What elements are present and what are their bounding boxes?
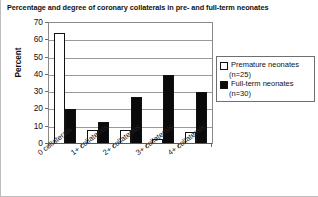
- legend-sublabel-premature: (n=25): [229, 70, 312, 79]
- legend-label-fullterm: Full-term neonates: [231, 79, 294, 88]
- legend-item-fullterm: Full-term neonates: [220, 79, 312, 89]
- legend-label-premature: Premature neonates: [231, 60, 299, 69]
- legend-swatch-fullterm-icon: [220, 81, 228, 89]
- y-tick-label: 10: [19, 121, 43, 131]
- y-tick-label: 20: [19, 103, 43, 113]
- gridline: [49, 92, 212, 93]
- y-tick-label: 50: [19, 52, 43, 62]
- y-tick-label: 60: [19, 34, 43, 44]
- y-tick-label: 30: [19, 86, 43, 96]
- gridline: [49, 58, 212, 59]
- gridline: [49, 40, 212, 41]
- legend-sublabel-fullterm: (n=30): [229, 89, 312, 98]
- gridline: [49, 75, 212, 76]
- chart-figure: Percentage and degree of coronary collat…: [0, 0, 318, 197]
- legend-swatch-premature-icon: [220, 62, 228, 70]
- legend-item-premature: Premature neonates: [220, 60, 312, 70]
- chart-legend: Premature neonates (n=25) Full-term neon…: [216, 56, 315, 102]
- y-tick-label: 40: [19, 69, 43, 79]
- y-tick-label: 70: [19, 17, 43, 27]
- x-tick-mark: [211, 144, 212, 147]
